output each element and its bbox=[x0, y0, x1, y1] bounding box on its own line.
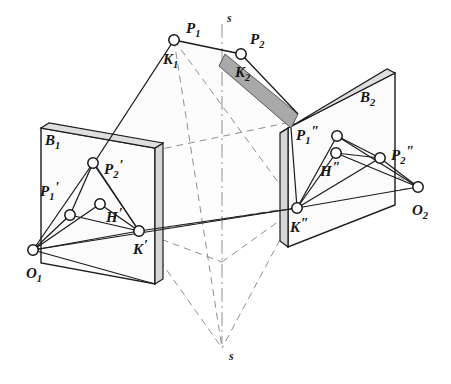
point-marker-P1[interactable] bbox=[169, 35, 179, 45]
point-marker-Hpp[interactable] bbox=[331, 148, 341, 158]
label-s-top: s bbox=[226, 11, 232, 25]
point-marker-P2pp[interactable] bbox=[375, 153, 385, 163]
plane-B1-right-edge bbox=[155, 143, 163, 284]
diagram-canvas: P1 K1 P2 K2 B1 B2 P2′ P1′ H′ K′ O1 P1″ H… bbox=[0, 0, 451, 384]
plane-B2-left-edge bbox=[280, 128, 288, 247]
label-P2pp: P2″ bbox=[391, 144, 414, 166]
label-s-bottom: s bbox=[228, 349, 234, 363]
label-P1: P1 bbox=[186, 20, 200, 39]
point-marker-P1pp[interactable] bbox=[332, 131, 342, 141]
label-O2: O2 bbox=[412, 202, 429, 221]
point-marker-Kpp[interactable] bbox=[292, 203, 302, 213]
point-marker-Kp[interactable] bbox=[134, 226, 144, 236]
point-marker-P2[interactable] bbox=[236, 49, 246, 59]
point-marker-Hp[interactable] bbox=[95, 199, 105, 209]
point-marker-O1[interactable] bbox=[28, 245, 38, 255]
point-marker-O2[interactable] bbox=[413, 182, 423, 192]
label-P2: P2 bbox=[250, 31, 265, 50]
point-marker-P1p[interactable] bbox=[65, 210, 75, 220]
label-O1: O1 bbox=[26, 265, 42, 284]
point-marker-P2p[interactable] bbox=[88, 158, 98, 168]
geometry-figure: P1 K1 P2 K2 B1 B2 P2′ P1′ H′ K′ O1 P1″ H… bbox=[0, 0, 451, 384]
